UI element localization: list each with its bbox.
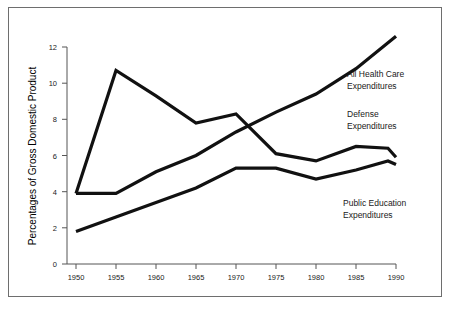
x-tick-label-1975: 1975 bbox=[268, 273, 285, 282]
y-tick-label-12: 12 bbox=[49, 43, 57, 52]
annotation-defense-line2: Expenditures bbox=[347, 121, 397, 131]
x-tick-label-1950: 1950 bbox=[68, 273, 85, 282]
x-tick-label-1985: 1985 bbox=[348, 273, 365, 282]
y-axis-title: Percentages of Gross Domestic Product bbox=[27, 67, 38, 246]
annotation-defense-line1: Defense bbox=[347, 109, 379, 119]
y-tick-label-6: 6 bbox=[53, 152, 57, 161]
x-tick-label-1990: 1990 bbox=[388, 273, 405, 282]
x-tick-label-1980: 1980 bbox=[308, 273, 325, 282]
x-tick-label-1960: 1960 bbox=[148, 273, 165, 282]
annotation-all-health-care: All Health Care Expenditures bbox=[347, 69, 404, 91]
annotation-education-line1: Public Education bbox=[343, 198, 407, 208]
y-tick-label-4: 4 bbox=[53, 188, 57, 197]
x-tick-marks bbox=[76, 264, 396, 269]
line-chart: 12 10 8 6 4 2 0 1950 1955 1960 1965 1970… bbox=[0, 0, 451, 313]
chart-page: 12 10 8 6 4 2 0 1950 1955 1960 1965 1970… bbox=[0, 0, 451, 313]
annotation-health-line2: Expenditures bbox=[347, 81, 397, 91]
annotation-defense: Defense Expenditures bbox=[347, 109, 397, 131]
annotation-health-line1: All Health Care bbox=[347, 69, 404, 79]
x-tick-label-1965: 1965 bbox=[188, 273, 205, 282]
x-tick-label-1955: 1955 bbox=[108, 273, 125, 282]
y-tick-label-2: 2 bbox=[53, 224, 57, 233]
y-tick-label-8: 8 bbox=[53, 115, 57, 124]
series-line-public-education bbox=[76, 161, 396, 232]
y-tick-marks bbox=[62, 47, 67, 264]
y-tick-label-10: 10 bbox=[49, 79, 57, 88]
annotation-education-line2: Expenditures bbox=[343, 210, 393, 220]
x-tick-label-1970: 1970 bbox=[228, 273, 245, 282]
annotation-public-education: Public Education Expenditures bbox=[343, 198, 407, 220]
y-tick-label-0: 0 bbox=[53, 260, 57, 269]
